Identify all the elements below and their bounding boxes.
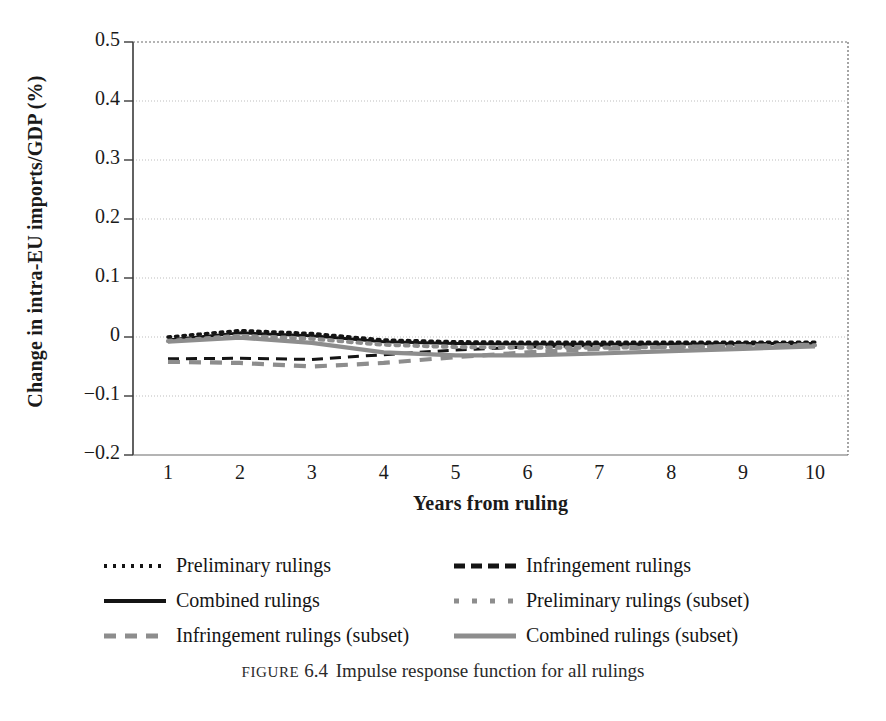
x-tick-label: 7 bbox=[569, 461, 629, 484]
x-tick-label: 9 bbox=[713, 461, 773, 484]
x-tick-label: 10 bbox=[785, 461, 845, 484]
legend-line-sample bbox=[104, 594, 166, 608]
legend-line-sample bbox=[454, 559, 516, 573]
y-tick-marks bbox=[124, 42, 133, 455]
series-lines bbox=[168, 331, 815, 367]
chart-legend: Preliminary rulingsInfringement rulingsC… bbox=[104, 548, 804, 653]
legend-item[interactable]: Infringement rulings bbox=[454, 548, 804, 583]
legend-item-label: Combined rulings (subset) bbox=[526, 624, 738, 647]
x-tick-label: 3 bbox=[282, 461, 342, 484]
y-tick-label: 0.2 bbox=[48, 205, 120, 228]
y-tick-label: −0.1 bbox=[48, 382, 120, 405]
x-axis-title: Years from ruling bbox=[133, 492, 848, 515]
legend-line-sample bbox=[454, 594, 516, 608]
legend-item[interactable]: Combined rulings (subset) bbox=[454, 618, 804, 653]
x-tick-label: 8 bbox=[641, 461, 701, 484]
legend-item-label: Preliminary rulings (subset) bbox=[526, 589, 749, 612]
figure-container: Change in intra-EU imports/GDP (%) Years… bbox=[0, 0, 886, 721]
x-tick-label: 1 bbox=[138, 461, 198, 484]
x-tick-label: 2 bbox=[210, 461, 270, 484]
caption-text: Impulse response function for all ruling… bbox=[336, 660, 645, 681]
y-axis-title: Change in intra-EU imports/GDP (%) bbox=[24, 32, 47, 452]
figure-caption: Figure6.4 Impulse response function for … bbox=[0, 660, 886, 682]
y-tick-label: 0 bbox=[48, 323, 120, 346]
legend-item[interactable]: Combined rulings bbox=[104, 583, 454, 618]
caption-number: 6.4 bbox=[304, 660, 328, 681]
plot-frame bbox=[133, 42, 848, 455]
legend-line-sample bbox=[454, 629, 516, 643]
legend-item[interactable]: Preliminary rulings bbox=[104, 548, 454, 583]
x-tick-label: 4 bbox=[354, 461, 414, 484]
chart-area: Change in intra-EU imports/GDP (%) Years… bbox=[0, 0, 886, 540]
y-tick-label: −0.2 bbox=[48, 441, 120, 464]
legend-item[interactable]: Preliminary rulings (subset) bbox=[454, 583, 804, 618]
legend-item-label: Infringement rulings bbox=[526, 554, 691, 577]
y-tick-label: 0.4 bbox=[48, 87, 120, 110]
x-tick-label: 6 bbox=[497, 461, 557, 484]
y-tick-label: 0.5 bbox=[48, 28, 120, 51]
legend-item-label: Infringement rulings (subset) bbox=[176, 624, 409, 647]
legend-item[interactable]: Infringement rulings (subset) bbox=[104, 618, 454, 653]
y-tick-label: 0.3 bbox=[48, 146, 120, 169]
legend-line-sample bbox=[104, 629, 166, 643]
caption-kicker: Figure bbox=[242, 664, 300, 680]
x-tick-label: 5 bbox=[426, 461, 486, 484]
legend-line-sample bbox=[104, 559, 166, 573]
legend-item-label: Preliminary rulings bbox=[176, 554, 331, 577]
legend-item-label: Combined rulings bbox=[176, 589, 320, 612]
gridlines bbox=[133, 101, 848, 396]
y-tick-label: 0.1 bbox=[48, 264, 120, 287]
impulse-response-plot bbox=[0, 0, 886, 540]
